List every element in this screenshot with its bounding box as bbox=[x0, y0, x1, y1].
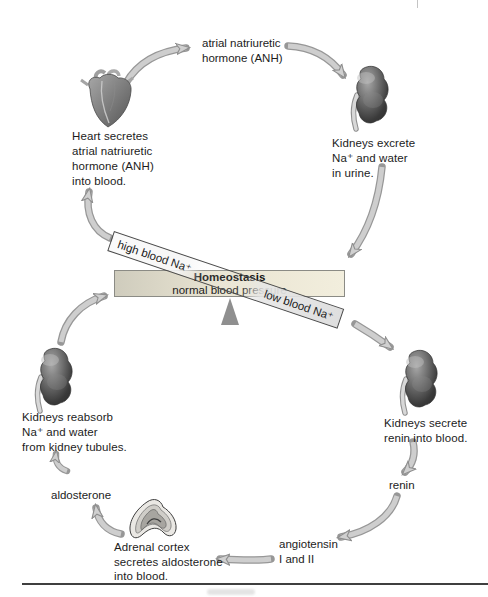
caption-line: Adrenal cortex bbox=[114, 540, 223, 555]
caption-line: into blood. bbox=[114, 569, 223, 584]
anh-label: atrial natriuretic hormone (ANH) bbox=[202, 36, 283, 66]
angiotensin-line1: angiotensin bbox=[279, 537, 338, 552]
arrow-kidney-to-renin bbox=[405, 442, 414, 472]
caption-line: atrial natriuretic bbox=[72, 144, 154, 159]
caption-line: Heart secretes bbox=[72, 129, 154, 144]
adrenal-gland-icon bbox=[127, 496, 181, 542]
caption-line: renin into blood. bbox=[384, 431, 468, 446]
arrow-aldosterone-to-kidney bbox=[56, 454, 67, 471]
homeostasis-feedback-diagram: atrial natriuretic hormone (ANH) Heart s… bbox=[0, 0, 488, 597]
caption-line: into blood. bbox=[72, 174, 154, 189]
heart-caption: Heart secretes atrial natriuretic hormon… bbox=[72, 129, 154, 189]
section-divider-rule bbox=[22, 583, 488, 585]
heart-icon bbox=[78, 66, 136, 132]
caption-line: secretes aldosterone bbox=[114, 555, 223, 570]
kidney-icon bbox=[29, 346, 75, 414]
anh-label-line1: atrial natriuretic bbox=[202, 36, 283, 51]
caption-line: in urine. bbox=[332, 166, 415, 181]
renin-label: renin bbox=[389, 478, 415, 493]
caption-line: hormone (ANH) bbox=[72, 159, 154, 174]
arrow-renin-to-angiotensin bbox=[341, 496, 397, 537]
anh-label-line2: hormone (ANH) bbox=[202, 51, 283, 66]
kidney-secrete-caption: Kidneys secrete renin into blood. bbox=[384, 416, 468, 446]
adrenal-caption: Adrenal cortex secretes aldosterone into… bbox=[114, 540, 223, 584]
caption-line: Na⁺ and water bbox=[332, 151, 415, 166]
kidney-excrete-caption: Kidneys excrete Na⁺ and water in urine. bbox=[332, 136, 415, 181]
angiotensin-line2: I and II bbox=[279, 552, 338, 567]
arrow-bar-to-heart bbox=[88, 192, 110, 238]
arrow-kidney-to-bar-left bbox=[61, 296, 104, 342]
kidney-icon bbox=[394, 348, 440, 416]
cropped-content-smudge bbox=[207, 589, 255, 595]
fulcrum-triangle bbox=[221, 298, 239, 325]
arrow-band-to-kidney bbox=[355, 324, 390, 347]
kidney-icon bbox=[345, 64, 391, 132]
caption-line: Kidneys reabsorb bbox=[22, 410, 127, 425]
kidney-reabsorb-caption: Kidneys reabsorb Na⁺ and water from kidn… bbox=[22, 410, 127, 455]
aldosterone-label: aldosterone bbox=[51, 488, 111, 503]
page-edge-tick bbox=[417, 0, 418, 8]
caption-line: Kidneys excrete bbox=[332, 136, 415, 151]
cycle-arrows bbox=[0, 0, 488, 597]
caption-line: Na⁺ and water bbox=[22, 425, 127, 440]
angiotensin-label: angiotensin I and II bbox=[279, 537, 338, 567]
caption-line: Kidneys secrete bbox=[384, 416, 468, 431]
arrow-angiotensin-to-adrenal bbox=[220, 559, 271, 560]
caption-line: from kidney tubules. bbox=[22, 440, 127, 455]
arrow-anh-to-kidney bbox=[288, 46, 343, 75]
arrow-adrenal-to-aldosterone bbox=[96, 508, 121, 534]
